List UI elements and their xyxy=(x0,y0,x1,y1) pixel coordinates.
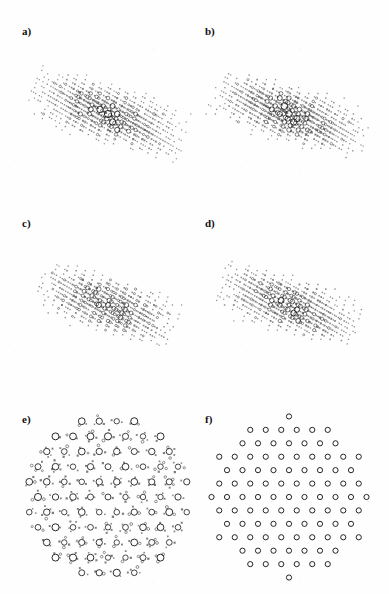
marker-dot xyxy=(130,307,131,308)
marker-dot xyxy=(56,126,57,127)
marker-dot xyxy=(286,96,288,98)
marker-dot xyxy=(167,296,168,297)
marker-dot xyxy=(326,108,328,110)
marker-circle xyxy=(147,527,150,530)
marker-dot xyxy=(58,265,59,266)
marker-dot xyxy=(296,101,298,103)
marker-dot xyxy=(256,270,257,271)
marker-circle xyxy=(279,92,283,96)
marker-circle xyxy=(63,295,65,297)
marker-dot xyxy=(271,92,273,94)
marker-circle xyxy=(95,122,98,125)
marker-dot xyxy=(277,96,279,98)
marker-dot xyxy=(282,279,283,280)
marker-dot xyxy=(136,326,138,328)
marker-dot xyxy=(261,278,262,279)
marker-dot xyxy=(76,558,78,560)
marker-dot xyxy=(122,292,124,294)
marker-dot xyxy=(346,321,347,322)
marker-dot xyxy=(165,131,166,132)
marker-dot xyxy=(55,295,56,296)
marker-dot xyxy=(284,318,286,320)
marker-dot xyxy=(334,124,336,126)
marker-circle xyxy=(104,433,111,440)
marker-dot xyxy=(129,120,130,121)
marker-dot xyxy=(334,331,335,332)
marker-dot xyxy=(140,334,141,335)
marker-dot xyxy=(94,496,95,497)
marker-dot xyxy=(246,89,247,90)
marker-dot xyxy=(246,290,248,292)
marker-dot xyxy=(97,325,99,327)
marker-dot xyxy=(331,117,333,119)
marker-dot xyxy=(170,144,171,145)
marker-dot xyxy=(160,133,161,134)
marker-circle xyxy=(149,540,155,546)
marker-dot xyxy=(298,87,299,88)
marker-dot xyxy=(144,331,145,332)
marker-dot xyxy=(151,149,152,150)
panel-c: c) xyxy=(0,205,195,400)
marker-dot xyxy=(340,334,341,335)
marker-dot xyxy=(226,98,227,99)
marker-dot xyxy=(151,107,152,108)
marker-dot xyxy=(223,92,224,93)
marker-group-b xyxy=(206,73,369,158)
marker-circle xyxy=(130,523,133,526)
marker-dot xyxy=(150,111,151,112)
marker-circle xyxy=(139,542,142,545)
marker-circle xyxy=(65,99,67,101)
marker-dot xyxy=(336,125,337,126)
marker-dot xyxy=(35,512,37,514)
marker-dot xyxy=(145,300,146,301)
marker-dot xyxy=(64,88,65,89)
marker-dot xyxy=(360,144,361,145)
marker-dot xyxy=(64,475,66,477)
marker-dot xyxy=(130,485,132,487)
marker-dot xyxy=(250,293,251,294)
marker-dot xyxy=(51,92,52,93)
marker-circle xyxy=(117,108,120,111)
marker-dot xyxy=(244,82,245,83)
marker-dot xyxy=(59,287,61,289)
marker-dot xyxy=(133,128,135,130)
marker-circle xyxy=(109,321,112,324)
marker-dot xyxy=(248,90,250,92)
marker-dot xyxy=(325,330,327,332)
marker-circle xyxy=(45,517,48,520)
marker-dot xyxy=(320,312,322,314)
marker-dot xyxy=(151,313,153,315)
marker-dot xyxy=(276,308,278,310)
marker-dot xyxy=(132,101,133,102)
marker-circle xyxy=(149,448,155,454)
marker-dot xyxy=(181,522,183,524)
marker-dot xyxy=(285,281,286,282)
marker-dot xyxy=(42,283,43,284)
marker-circle xyxy=(172,484,174,486)
marker-dot xyxy=(159,117,160,118)
marker-dot xyxy=(44,505,46,507)
marker-dot xyxy=(101,126,103,128)
marker-dot xyxy=(269,102,271,104)
marker-dot xyxy=(120,290,121,291)
marker-dot xyxy=(85,116,87,118)
marker-dot xyxy=(66,497,68,499)
marker-dot xyxy=(110,88,112,90)
marker-dot xyxy=(57,105,58,106)
marker-dot xyxy=(68,543,70,545)
marker-circle xyxy=(123,329,126,332)
marker-dot xyxy=(330,329,331,330)
marker-dot xyxy=(47,84,48,85)
marker-dot xyxy=(68,112,69,113)
marker-dot xyxy=(287,298,288,299)
marker-circle xyxy=(277,133,279,135)
marker-circle xyxy=(316,97,318,99)
marker-dot xyxy=(81,283,83,285)
marker-dot xyxy=(239,90,241,92)
marker-dot xyxy=(328,317,330,319)
marker-dot xyxy=(111,529,113,531)
marker-dot xyxy=(237,89,238,90)
marker-dot xyxy=(247,270,249,272)
marker-dot xyxy=(362,129,363,130)
marker-circle xyxy=(109,279,111,281)
